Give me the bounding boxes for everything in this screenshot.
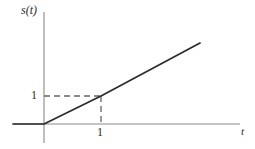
ramp-function-figure: s(t) t 1 1 [0, 0, 255, 149]
x-axis-label: t [241, 126, 244, 137]
x-axis-tick-label-1: 1 [97, 126, 103, 138]
plot-canvas [0, 0, 255, 149]
ramp-function-curve [13, 43, 200, 124]
y-axis-tick-label-1: 1 [31, 89, 37, 101]
y-axis-label: s(t) [21, 4, 37, 16]
